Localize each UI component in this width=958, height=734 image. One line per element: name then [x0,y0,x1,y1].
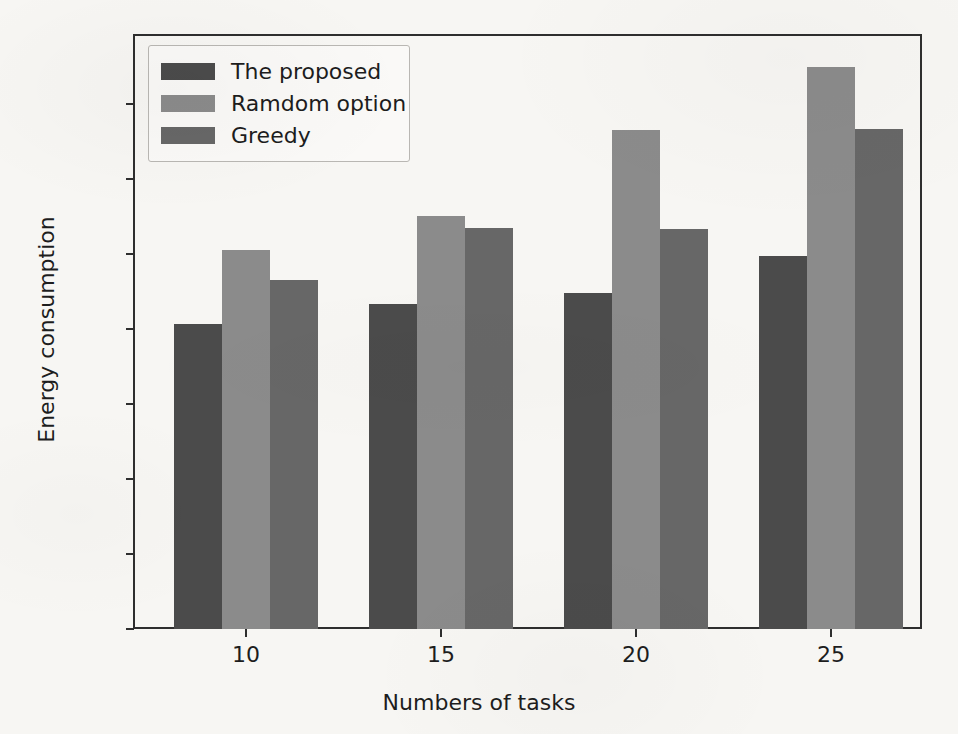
y-tick-mark [126,478,134,480]
legend-swatch-icon [161,63,215,80]
x-axis-label: Numbers of tasks [0,690,958,715]
bars-layer [0,0,958,734]
bar [222,250,270,629]
y-tick-mark [126,178,134,180]
legend-entry: Ramdom option [161,87,397,119]
bar [417,216,465,629]
legend-label: Ramdom option [231,91,406,116]
x-tick-mark [245,629,247,637]
legend-entry: Greedy [161,119,397,151]
y-tick-mark [126,328,134,330]
y-tick-mark [126,403,134,405]
x-tick-label: 20 [576,642,696,667]
legend-swatch-icon [161,95,215,112]
legend-entry: The proposed [161,55,397,87]
bar [759,256,807,630]
bar [270,280,318,629]
legend-label: The proposed [231,59,381,84]
x-tick-mark [635,629,637,637]
x-tick-mark [440,629,442,637]
bar [465,228,513,629]
y-tick-mark [126,253,134,255]
legend-label: Greedy [231,123,311,148]
bar [855,129,903,629]
bar [564,293,612,629]
y-axis-label: Energy consumption [34,30,59,630]
chart-legend: The proposedRamdom optionGreedy [148,45,410,162]
x-tick-label: 10 [186,642,306,667]
bar-chart-figure: Energy consumption 050010001500200025003… [0,0,958,734]
legend-swatch-icon [161,127,215,144]
bar [612,130,660,629]
y-tick-mark [126,553,134,555]
x-tick-label: 25 [771,642,891,667]
x-tick-label: 15 [381,642,501,667]
y-tick-mark [126,103,134,105]
bar [807,67,855,630]
bar [660,229,708,630]
bar [369,304,417,630]
y-tick-mark [126,628,134,630]
x-tick-mark [830,629,832,637]
bar [174,324,222,629]
